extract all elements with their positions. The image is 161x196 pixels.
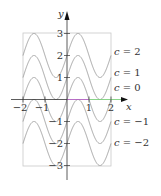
curve-label-c-2: c = 2 [114,46,141,57]
x-tick-label: −2 [13,102,28,113]
x-tick-label: 1 [86,102,92,113]
x-axis-label: x [126,101,132,112]
y-tick-label: 2 [57,50,63,61]
y-tick-label: 3 [57,28,63,39]
y-tick-label: −2 [48,138,63,149]
y-axis-label: y [57,8,64,19]
sine-family-plot: −2−112321−1−2−3xyc = 2c = 1c = 0c = −1c … [0,0,161,196]
curve-label-c--2: c = −2 [114,137,149,148]
y-tick-label: −1 [48,116,63,127]
curve-label-c-1: c = 1 [114,67,141,78]
y-tick-label: 1 [57,72,63,83]
axes [11,11,128,180]
y-axis-arrow-icon [65,11,70,20]
x-tick-label: −1 [35,102,50,113]
x-tick-label: 2 [108,102,114,113]
curve-label-c-0: c = 0 [114,82,141,93]
curve-label-c--1: c = −1 [114,116,149,127]
y-tick-label: −3 [48,160,63,171]
labels: −2−112321−1−2−3xyc = 2c = 1c = 0c = −1c … [13,8,149,171]
